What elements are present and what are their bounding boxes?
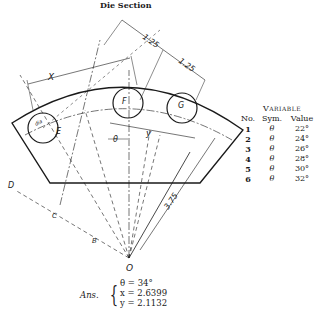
- row-sym: θ: [258, 144, 286, 154]
- row-sym: θ: [258, 174, 286, 184]
- brace-icon: {: [110, 284, 118, 306]
- dim-theta: θ: [113, 135, 118, 144]
- dim-x: X: [47, 72, 55, 82]
- answer-theta: θ = 34°: [120, 278, 153, 288]
- point-d: D: [8, 181, 14, 190]
- header-value: Value: [286, 114, 318, 124]
- row-sym: θ: [258, 124, 286, 134]
- table-row: 5 θ 30°: [238, 164, 318, 174]
- row-value: 22°: [286, 124, 318, 134]
- row-sym: θ: [258, 164, 286, 174]
- row-no: 2: [238, 134, 258, 144]
- row-value: 24°: [286, 134, 318, 144]
- dim-dia: dia: [34, 118, 44, 127]
- answer-label: Ans.: [80, 290, 99, 300]
- point-b: B: [92, 237, 97, 245]
- row-sym: θ: [258, 154, 286, 164]
- row-value: 30°: [286, 164, 318, 174]
- point-g: G: [178, 101, 184, 110]
- point-f: F: [122, 97, 127, 106]
- dim-y: y: [145, 128, 152, 138]
- variable-table-title: Variable: [238, 104, 318, 114]
- row-no: 5: [238, 164, 258, 174]
- table-row: 2 θ 24°: [238, 134, 318, 144]
- point-c: C: [52, 212, 57, 220]
- point-e: E: [56, 127, 62, 136]
- row-sym: θ: [258, 134, 286, 144]
- table-row: 3 θ 26°: [238, 144, 318, 154]
- table-row: 1 θ 22°: [238, 124, 318, 134]
- header-sym: Sym.: [258, 114, 286, 124]
- variable-table: Variable No. Sym. Value 1 θ 22° 2 θ 24° …: [238, 104, 318, 184]
- hole-f: [113, 88, 143, 118]
- row-value: 28°: [286, 154, 318, 164]
- row-no: 4: [238, 154, 258, 164]
- row-no: 3: [238, 144, 258, 154]
- dim-125-b: 1.25: [177, 56, 197, 74]
- answer-y: y = 2.1132: [120, 298, 167, 308]
- die-outline: [12, 87, 243, 183]
- header-no: No.: [238, 114, 258, 124]
- row-no: 6: [238, 174, 258, 184]
- variable-table-header: No. Sym. Value: [238, 114, 318, 124]
- table-row: 6 θ 32°: [238, 174, 318, 184]
- dim-125-a: 1.25: [141, 32, 161, 50]
- point-o: O: [126, 263, 133, 273]
- answer-x: x = 2.6399: [120, 288, 167, 298]
- row-no: 1: [238, 124, 258, 134]
- row-value: 26°: [286, 144, 318, 154]
- table-row: 4 θ 28°: [238, 154, 318, 164]
- row-value: 32°: [286, 174, 318, 184]
